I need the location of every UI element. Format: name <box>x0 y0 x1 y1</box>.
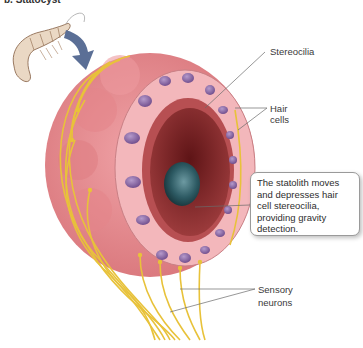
label-hair-cells-line1: Hair <box>270 103 287 114</box>
statolith-callout: The statolith moves and depresses hair c… <box>250 172 360 236</box>
label-sensory-neurons-line2: neurons <box>258 297 292 308</box>
label-hair-cells-line2: cells <box>270 114 289 125</box>
arrow-icon <box>64 30 94 70</box>
shrimp-icon <box>13 13 84 81</box>
label-sensory-neurons-line1: Sensory <box>258 284 293 295</box>
label-stereocilia: Stereocilia <box>270 46 314 57</box>
statolith <box>164 162 200 206</box>
